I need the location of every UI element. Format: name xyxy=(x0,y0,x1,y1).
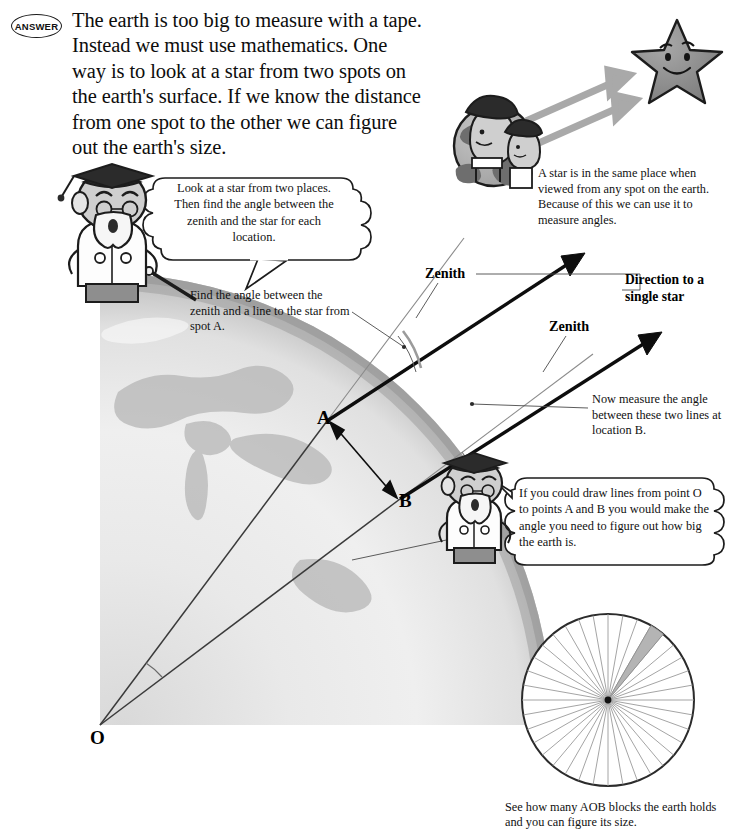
parallel-sight-arrows xyxy=(526,70,636,146)
scholar-right-bubble-text: If you could draw lines from point O to … xyxy=(519,485,709,551)
answer-page: ANSWER The earth is too big to measure w… xyxy=(0,0,730,840)
scholar-icon xyxy=(439,453,510,563)
sightline-a-arrowhead xyxy=(561,253,585,276)
wheel-center-dot xyxy=(605,697,612,704)
intro-paragraph: The earth is too big to measure with a t… xyxy=(72,8,422,160)
sightline-from-a xyxy=(327,262,571,421)
scholar-left-bubble-text: Look at a star from two places. Then fin… xyxy=(170,180,338,246)
note-star-same-place: A star is in the same place when viewed … xyxy=(538,166,716,228)
angle-wheel-icon xyxy=(522,614,694,786)
label-zenith-a: Zenith xyxy=(425,265,465,282)
label-point-o: O xyxy=(90,727,105,749)
small-globe-with-people-icon xyxy=(454,96,542,188)
note-find-angle-a: Find the angle between the zenith and a … xyxy=(190,288,350,335)
note-aob-blocks: See how many AOB blocks the earth holds … xyxy=(505,800,730,831)
label-direction-to-star: Direction to a single star xyxy=(625,272,729,305)
child-person-icon xyxy=(505,120,542,188)
label-point-a: A xyxy=(317,407,331,429)
label-point-b: B xyxy=(399,490,412,512)
label-zenith-b: Zenith xyxy=(549,318,589,335)
answer-badge: ANSWER xyxy=(11,14,62,38)
note-measure-angle-b: Now measure the angle between these two … xyxy=(592,392,722,439)
sightline-b-arrowhead xyxy=(638,332,662,355)
smiling-star-icon xyxy=(632,20,722,103)
